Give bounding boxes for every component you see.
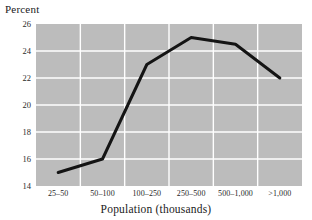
y-tick-label: 16 <box>23 154 32 164</box>
y-tick-label: 18 <box>23 127 32 137</box>
plot-area-wrapper <box>36 24 302 186</box>
x-tick-label: 250–500 <box>177 189 206 198</box>
y-tick-label: 14 <box>23 181 32 191</box>
y-tick-label: 20 <box>23 100 32 110</box>
y-tick-label: 26 <box>23 19 32 29</box>
y-tick-label: 24 <box>23 46 32 56</box>
x-tick-label: 100–250 <box>132 189 161 198</box>
x-tick-label: 50–100 <box>90 189 115 198</box>
x-axis-tick-labels: 25–5050–100100–250250–500500–1,000>1,000 <box>36 189 302 203</box>
y-tick-label: 22 <box>23 73 32 83</box>
x-axis-title: Population (thousands) <box>0 203 312 215</box>
x-tick-label: >1,000 <box>268 189 291 198</box>
y-axis-title: Percent <box>5 3 39 15</box>
line-series-percent <box>36 24 302 186</box>
y-axis-tick-labels: 14161820222426 <box>0 24 36 186</box>
x-tick-label: 500–1,000 <box>218 189 253 198</box>
chart-figure: Percent 14161820222426 25–5050–100100–25… <box>0 0 312 220</box>
x-tick-label: 25–50 <box>48 189 69 198</box>
